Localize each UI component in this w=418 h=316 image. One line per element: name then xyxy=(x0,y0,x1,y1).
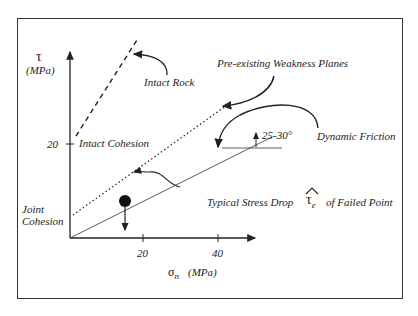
intact-rock-envelope xyxy=(76,40,137,136)
stress-drop-label: Typical Stress Drop xyxy=(207,197,293,208)
intact-rock-label: Intact Rock xyxy=(144,77,194,88)
weakness-planes-label: Pre-existing Weakness Planes xyxy=(217,58,348,69)
dynamic-friction-line xyxy=(70,137,272,238)
dynamic-friction-label: Dynamic Friction xyxy=(317,131,396,142)
x-tick-label-40: 40 xyxy=(212,248,223,259)
y-axis-unit: (MPa) xyxy=(26,65,55,76)
x-axis-title: σn (MPa) xyxy=(168,266,217,281)
failed-point xyxy=(119,195,131,207)
angle-label: 25-30° xyxy=(262,130,292,141)
sigma-subscript: n xyxy=(174,271,179,281)
failed-point-label: of Failed Point xyxy=(326,197,393,208)
x-tick-label-20: 20 xyxy=(137,248,148,259)
joint-cohesion-label-line2: Cohesion xyxy=(22,216,64,227)
x-axis-unit: (MPa) xyxy=(188,266,217,278)
tau-hat-symbol: τe xyxy=(306,193,316,210)
y-axis-symbol: τ xyxy=(36,50,42,64)
tau-e-subscript: e xyxy=(312,200,316,210)
intact-cohesion-label: Intact Cohesion xyxy=(79,138,149,149)
failed-point-pointer xyxy=(134,172,180,187)
joint-cohesion-label-line1: Joint xyxy=(22,204,44,215)
weakness-planes-pointer xyxy=(223,76,274,106)
intact-rock-pointer xyxy=(134,54,167,75)
y-tick-label-20: 20 xyxy=(47,139,58,150)
